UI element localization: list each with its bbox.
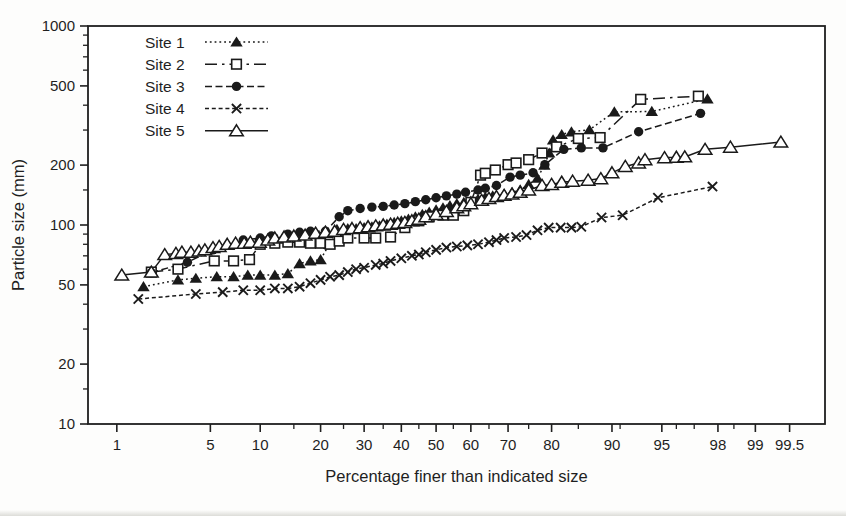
series-2-marker: [491, 165, 501, 175]
series-3-marker: [515, 170, 524, 179]
plot-area-frame: [88, 26, 825, 424]
x-tick-label: 95: [653, 436, 670, 453]
legend-label: Site 1: [145, 34, 185, 51]
series-2-marker: [325, 239, 335, 249]
x-tick-label: 40: [393, 436, 410, 453]
series-3-marker: [540, 160, 549, 169]
series-3-marker: [696, 109, 705, 118]
series-3-marker: [334, 212, 343, 221]
y-tick-label: 1000: [42, 17, 75, 34]
series-2-marker: [209, 256, 219, 266]
x-tick-label: 70: [500, 436, 517, 453]
series-3-marker: [421, 195, 430, 204]
series-3-marker: [183, 258, 192, 267]
x-tick-label: 1: [113, 436, 121, 453]
series-3-marker: [379, 202, 388, 211]
series-2-marker: [480, 168, 490, 178]
y-tick-label: 100: [50, 216, 75, 233]
series-3-marker: [492, 181, 501, 190]
series-3-marker: [355, 204, 364, 213]
legend-marker-square-open: [232, 59, 242, 69]
series-2-marker: [371, 233, 381, 243]
y-axis-title: Particle size (mm): [9, 159, 27, 291]
x-tick-label: 10: [252, 436, 269, 453]
legend-label: Site 4: [145, 100, 185, 117]
series-2-marker: [359, 233, 369, 243]
series-3-marker: [528, 168, 537, 177]
series-3-marker: [559, 145, 568, 154]
x-tick-label: 99: [747, 436, 764, 453]
particle-size-distribution-figure: 1020501002005001000151020304050607080909…: [0, 0, 846, 516]
x-tick-label: 80: [543, 436, 560, 453]
y-tick-label: 50: [58, 276, 75, 293]
x-tick-label: 20: [312, 436, 329, 453]
x-tick-label: 90: [604, 436, 621, 453]
series-3-marker: [367, 202, 376, 211]
series-3-marker: [461, 188, 470, 197]
series-3-marker: [411, 197, 420, 206]
x-tick-label: 60: [463, 436, 480, 453]
legend-label: Site 3: [145, 78, 185, 95]
series-2-marker: [595, 133, 605, 143]
y-tick-label: 500: [50, 77, 75, 94]
y-tick-label: 20: [58, 355, 75, 372]
x-tick-label: 50: [428, 436, 445, 453]
series-3-marker: [481, 184, 490, 193]
scan-artifact-bottom: [0, 510, 846, 516]
x-axis-title: Percentage finer than indicated size: [325, 467, 587, 485]
series-2-marker: [386, 232, 396, 242]
series-3-marker: [400, 199, 409, 208]
legend-label: Site 5: [145, 122, 185, 139]
x-tick-label: 98: [710, 436, 727, 453]
y-tick-label: 10: [58, 415, 75, 432]
series-3-marker: [505, 172, 514, 181]
chart-canvas: 1020501002005001000151020304050607080909…: [0, 0, 846, 516]
series-3-marker: [431, 193, 440, 202]
series-2-marker: [173, 264, 183, 274]
series-2-marker: [229, 256, 239, 266]
series-3-marker: [634, 127, 643, 136]
series-2-marker: [636, 95, 646, 105]
series-2-marker: [694, 91, 704, 101]
series-2-marker: [574, 134, 584, 144]
series-3-marker: [577, 143, 586, 152]
series-3-marker: [598, 143, 607, 152]
legend-label: Site 2: [145, 56, 185, 73]
x-tick-label: 99.5: [775, 436, 804, 453]
y-tick-label: 200: [50, 156, 75, 173]
series-3-marker: [389, 200, 398, 209]
series-3-marker: [452, 189, 461, 198]
series-2-marker: [537, 148, 547, 158]
series-2-marker: [524, 155, 534, 165]
series-3-marker: [343, 206, 352, 215]
x-tick-label: 30: [356, 436, 373, 453]
series-2-marker: [245, 255, 255, 265]
series-2-marker: [316, 238, 326, 248]
series-3-marker: [442, 191, 451, 200]
legend-marker-circle-filled: [232, 82, 241, 91]
x-tick-label: 5: [206, 436, 214, 453]
series-2-marker: [511, 158, 521, 168]
